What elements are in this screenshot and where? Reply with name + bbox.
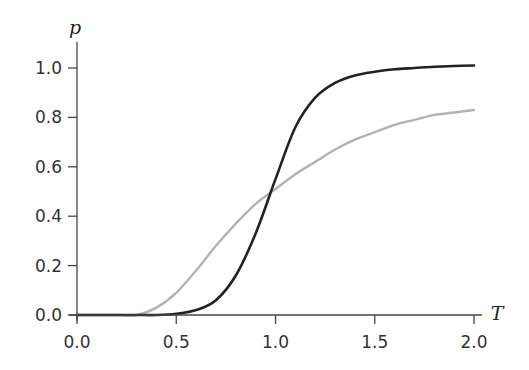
x-tick-label: 1.5 bbox=[361, 332, 388, 352]
y-tick-label: 1.0 bbox=[35, 58, 62, 78]
y-tick-label: 0.6 bbox=[35, 157, 62, 177]
y-tick-label: 0.0 bbox=[35, 305, 62, 325]
series-line-gray bbox=[77, 110, 474, 316]
y-tick-label: 0.2 bbox=[35, 256, 62, 276]
y-axis-label: p bbox=[69, 16, 81, 38]
x-tick-label: 0.0 bbox=[63, 332, 90, 352]
y-tick-label: 0.4 bbox=[35, 206, 62, 226]
x-tick-label: 1.0 bbox=[262, 332, 289, 352]
x-axis-label: T bbox=[491, 302, 505, 324]
x-tick-label: 0.5 bbox=[163, 332, 190, 352]
plot-area bbox=[77, 66, 474, 316]
y-tick-label: 0.8 bbox=[35, 107, 62, 127]
x-tick-label: 2.0 bbox=[460, 332, 487, 352]
chart: 0.00.20.40.60.81.00.00.51.01.52.0pT bbox=[0, 0, 529, 370]
